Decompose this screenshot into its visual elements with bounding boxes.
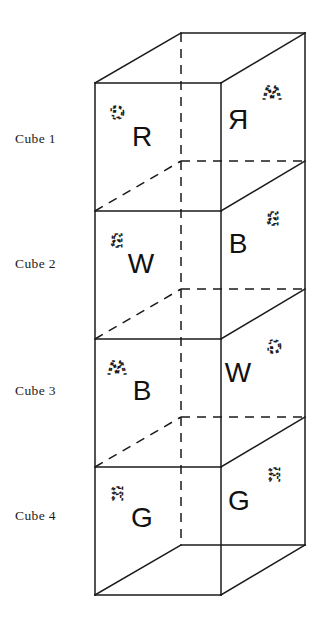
divider1-left-hidden-receding-edge [95,161,181,211]
cube-2-glyphs: B W B B [111,208,280,279]
bottom-face [95,545,305,595]
cube-divider-2 [95,289,305,339]
divider3-left-hidden-receding-edge [95,417,181,467]
divider2-left-hidden-receding-edge [95,289,181,339]
cube-4-front-visible-letter: G [131,502,153,533]
cube-divider-1 [95,161,305,211]
cube-4-right-hidden-letter: R [267,464,281,485]
cube-1-glyphs: G R R W [110,82,281,152]
cube-3-glyphs: W B W G [108,336,281,406]
cube-row-label-2: Cube 2 [15,256,56,272]
cube-stack-drawing: G R R W B W B B W B W G R G G R [0,0,327,622]
cube-3-front-visible-letter: B [133,375,152,406]
top-right-receding-edge [221,33,305,83]
cube-1-front-hidden-letter: G [110,102,125,123]
top-left-receding-edge [95,33,181,83]
cube-1-right-hidden-letter: W [263,82,281,103]
cube-2-front-hidden-letter: B [111,230,124,251]
cube-2-right-visible-letter: B [229,228,248,259]
vertical-edges [95,33,305,595]
bottom-left-receding-edge [95,545,181,595]
cube-2-right-hidden-letter: B [267,208,280,229]
cube-3-front-hidden-letter: W [108,357,126,378]
cube-divider-3 [95,417,305,467]
cube-stack-figure: Cube 1 Cube 2 Cube 3 Cube 4 [0,0,327,622]
cube-row-label-4: Cube 4 [15,508,56,524]
divider3-right-receding-edge [221,417,305,467]
cube-3-right-visible-letter: W [225,357,252,388]
cube-row-label-1: Cube 1 [15,131,56,147]
bottom-right-receding-edge [221,545,305,595]
cube-row-label-3: Cube 3 [15,383,56,399]
cube-4-front-hidden-letter: R [110,483,124,504]
top-face [95,33,305,83]
cube-1-front-visible-letter: R [132,121,152,152]
cube-4-glyphs: R G G R [110,464,281,533]
divider2-right-receding-edge [221,289,305,339]
divider1-right-receding-edge [221,161,305,211]
cube-3-right-hidden-letter: G [267,336,282,357]
cube-2-front-visible-letter: W [128,248,155,279]
cube-1-right-visible-letter: R [228,104,248,135]
cube-4-right-visible-letter: G [228,485,250,516]
